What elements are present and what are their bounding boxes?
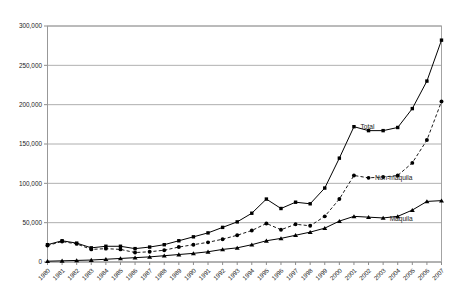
- x-tick-label: 2006: [416, 266, 431, 281]
- x-tick-label: 1994: [241, 266, 256, 281]
- y-tick-label: 150,000: [19, 140, 43, 147]
- series-maquila: [45, 198, 444, 263]
- data-point-square: [221, 226, 224, 229]
- x-tick-label: 2000: [328, 266, 343, 281]
- data-point-circle: [250, 229, 254, 233]
- x-tick-label: 2002: [358, 266, 373, 281]
- data-point-square: [440, 38, 443, 41]
- x-tick-label: 1984: [95, 266, 110, 281]
- x-tick-label: 1996: [270, 266, 285, 281]
- y-axis: 050,000100,000150,000200,000250,000300,0…: [19, 22, 48, 265]
- x-tick-label: 1989: [168, 266, 183, 281]
- data-point-circle: [264, 222, 268, 226]
- data-point-square: [396, 126, 399, 129]
- y-tick-label: 300,000: [19, 22, 43, 29]
- data-point-square: [177, 239, 180, 242]
- data-point-square: [381, 129, 384, 132]
- x-tick-label: 1997: [285, 266, 300, 281]
- data-point-square: [192, 235, 195, 238]
- data-point-circle: [410, 161, 414, 165]
- data-point-square: [133, 247, 136, 250]
- x-tick-label: 1995: [255, 266, 270, 281]
- x-tick-label: 2003: [372, 266, 387, 281]
- data-point-square: [338, 156, 341, 159]
- data-point-square: [308, 202, 311, 205]
- data-point-circle: [89, 247, 93, 251]
- x-tick-label: 1986: [124, 266, 139, 281]
- grid-layer: [48, 26, 442, 223]
- x-tick-label: 2001: [343, 266, 358, 281]
- data-point-square: [411, 107, 414, 110]
- series-label-maquila: Maquila: [390, 215, 413, 223]
- series-layer: [45, 38, 444, 263]
- x-tick-label: 1992: [212, 266, 227, 281]
- x-tick-label: 1999: [314, 266, 329, 281]
- data-point-square: [206, 231, 209, 234]
- x-tick-label: 1991: [197, 266, 212, 281]
- data-point-circle: [206, 240, 210, 244]
- data-point-circle: [75, 242, 79, 246]
- data-point-square: [250, 212, 253, 215]
- data-point-square: [352, 125, 355, 128]
- data-point-square: [294, 201, 297, 204]
- x-tick-label: 1983: [80, 266, 95, 281]
- data-point-circle: [323, 214, 327, 218]
- data-point-circle: [191, 243, 195, 247]
- series-label-total: Total: [360, 123, 374, 130]
- data-point-square: [279, 207, 282, 210]
- series-label-non-maquila: Non-maquila: [375, 174, 413, 182]
- x-tick-label: 1988: [153, 266, 168, 281]
- data-point-circle: [46, 244, 50, 248]
- x-tick-label: 2005: [401, 266, 416, 281]
- data-point-circle: [177, 245, 181, 249]
- line-chart: 050,000100,000150,000200,000250,000300,0…: [0, 0, 454, 302]
- series-line: [48, 201, 442, 262]
- data-point-circle: [425, 138, 429, 142]
- data-point-circle: [294, 222, 298, 226]
- chart-container: 050,000100,000150,000200,000250,000300,0…: [0, 0, 454, 302]
- data-point-circle: [352, 174, 356, 178]
- data-point-square: [148, 245, 151, 248]
- data-point-circle: [133, 251, 137, 255]
- x-tick-label: 1987: [139, 266, 154, 281]
- data-point-square: [323, 186, 326, 189]
- data-point-square: [265, 197, 268, 200]
- y-tick-label: 100,000: [19, 180, 43, 187]
- x-tick-label: 1998: [299, 266, 314, 281]
- y-tick-label: 0: [38, 258, 42, 265]
- data-point-circle: [60, 240, 64, 244]
- data-point-circle: [367, 176, 371, 180]
- series-annotations: TotalNon-maquilaMaquila: [360, 123, 413, 222]
- x-tick-label: 1982: [66, 266, 81, 281]
- x-tick-label: 1993: [226, 266, 241, 281]
- data-point-circle: [235, 233, 239, 237]
- data-point-square: [119, 245, 122, 248]
- data-point-circle: [162, 248, 166, 252]
- data-point-circle: [279, 228, 283, 232]
- data-point-square: [163, 243, 166, 246]
- data-point-circle: [104, 247, 108, 251]
- data-point-circle: [221, 237, 225, 241]
- x-tick-label: 1990: [182, 266, 197, 281]
- data-point-triangle: [322, 226, 327, 230]
- y-tick-label: 200,000: [19, 101, 43, 108]
- data-point-circle: [148, 250, 152, 254]
- x-tick-label: 2004: [387, 266, 402, 281]
- y-tick-label: 250,000: [19, 62, 43, 69]
- x-axis: 1980198119821983198419851986198719881989…: [37, 262, 446, 281]
- data-point-circle: [308, 224, 312, 228]
- data-point-square: [425, 79, 428, 82]
- x-tick-label: 2007: [431, 266, 446, 281]
- y-tick-label: 50,000: [22, 219, 42, 226]
- x-tick-label: 1980: [37, 266, 52, 281]
- x-tick-label: 1985: [109, 266, 124, 281]
- x-tick-label: 1981: [51, 266, 66, 281]
- data-point-square: [236, 220, 239, 223]
- data-point-circle: [337, 197, 341, 201]
- data-point-circle: [119, 247, 123, 251]
- data-point-circle: [440, 100, 444, 104]
